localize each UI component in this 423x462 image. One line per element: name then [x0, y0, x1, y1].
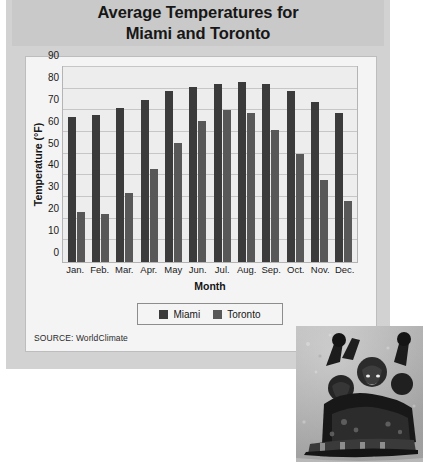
bar-group: [259, 67, 283, 262]
x-axis-tick-aug: Aug.: [235, 265, 260, 275]
x-axis-tick-labels: Jan.Feb.Mar.Apr.MayJun.Jul.Aug.Sep.Oct.N…: [62, 265, 358, 275]
plot-area: [62, 66, 358, 263]
bar-toronto-aug: [247, 113, 255, 262]
bar-toronto-jun: [198, 121, 206, 262]
sledding-photo: [296, 326, 423, 462]
bar-miami-apr: [141, 100, 149, 263]
y-axis-tick-30: 30: [37, 182, 59, 192]
x-axis-tick-may: May: [161, 265, 186, 275]
bar-miami-aug: [238, 82, 246, 262]
y-axis-tick-labels: 0102030405060708090: [37, 66, 59, 263]
source-note: SOURCE: WorldClimate: [34, 333, 128, 343]
bar-toronto-feb: [101, 214, 109, 262]
bars-layer: [63, 67, 357, 262]
bar-group: [137, 67, 161, 262]
bar-miami-mar: [116, 108, 124, 262]
bar-toronto-nov: [320, 180, 328, 262]
bar-miami-oct: [287, 91, 295, 262]
y-axis-tick-10: 10: [37, 226, 59, 236]
x-axis-tick-feb: Feb.: [88, 265, 113, 275]
bar-miami-may: [165, 91, 173, 262]
x-axis-tick-oct: Oct.: [284, 265, 309, 275]
x-axis-tick-sep: Sep.: [259, 265, 284, 275]
title-band: Average Temperatures for Miami and Toron…: [12, 0, 384, 46]
bar-miami-feb: [92, 115, 100, 262]
y-axis-tick-60: 60: [37, 117, 59, 127]
bar-toronto-oct: [296, 154, 304, 262]
legend-item-miami: Miami: [159, 309, 200, 320]
bar-toronto-sep: [271, 130, 279, 262]
x-axis-tick-jun: Jun.: [186, 265, 211, 275]
x-axis-tick-apr: Apr.: [137, 265, 162, 275]
chart-card: Temperature (°F) 0102030405060708090 Jan…: [25, 56, 377, 352]
bar-group: [64, 67, 88, 262]
bar-group: [88, 67, 112, 262]
sledding-photo-image: [296, 326, 423, 462]
bar-group: [186, 67, 210, 262]
y-axis-tick-70: 70: [37, 95, 59, 105]
bar-miami-sep: [262, 84, 270, 262]
bar-group: [210, 67, 234, 262]
bar-group: [234, 67, 258, 262]
bar-group: [113, 67, 137, 262]
bar-toronto-apr: [150, 169, 158, 262]
y-axis-tick-90: 90: [37, 51, 59, 61]
y-axis-tick-40: 40: [37, 160, 59, 170]
bar-miami-dec: [335, 113, 343, 262]
x-axis-tick-mar: Mar.: [112, 265, 137, 275]
bar-toronto-jul: [223, 110, 231, 262]
chart-title: Average Temperatures for Miami and Toron…: [97, 2, 298, 43]
legend-label-miami: Miami: [173, 309, 200, 320]
bar-miami-nov: [311, 102, 319, 262]
y-axis-tick-20: 20: [37, 204, 59, 214]
y-axis-tick-80: 80: [37, 73, 59, 83]
x-axis-tick-nov: Nov.: [308, 265, 333, 275]
bar-miami-jul: [214, 84, 222, 262]
bar-toronto-dec: [344, 201, 352, 262]
chart-legend: MiamiToronto: [137, 303, 283, 325]
bar-miami-jun: [189, 87, 197, 263]
figure-panel: Average Temperatures for Miami and Toron…: [6, 0, 390, 369]
x-axis-tick-jul: Jul.: [210, 265, 235, 275]
plot-wrap: Temperature (°F) 0102030405060708090: [62, 66, 358, 263]
x-axis-tick-dec: Dec.: [333, 265, 358, 275]
x-axis-tick-jan: Jan.: [63, 265, 88, 275]
legend-swatch-miami: [159, 310, 168, 319]
y-axis-tick-50: 50: [37, 139, 59, 149]
bar-group: [283, 67, 307, 262]
bar-group: [161, 67, 185, 262]
legend-swatch-toronto: [213, 310, 222, 319]
bar-toronto-mar: [125, 193, 133, 262]
x-axis-title: Month: [62, 280, 358, 292]
bar-group: [307, 67, 331, 262]
y-axis-tick-0: 0: [37, 248, 59, 258]
bar-toronto-may: [174, 143, 182, 262]
legend-item-toronto: Toronto: [213, 309, 260, 320]
bar-group: [332, 67, 356, 262]
bar-toronto-jan: [77, 212, 85, 262]
legend-label-toronto: Toronto: [227, 309, 260, 320]
bar-miami-jan: [68, 117, 76, 262]
